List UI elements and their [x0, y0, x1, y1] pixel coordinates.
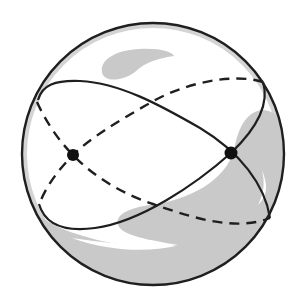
left-point-marker: [67, 149, 79, 161]
sphere-diagram: Sphere with two intersecting great circl…: [0, 0, 304, 295]
right-point-marker: [225, 147, 238, 160]
